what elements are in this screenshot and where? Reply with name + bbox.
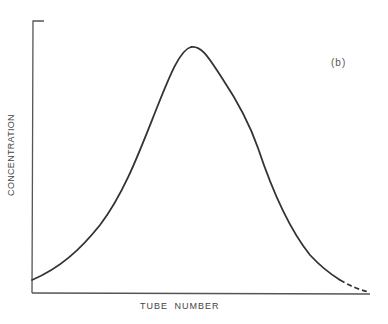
panel-label: (b)	[331, 57, 346, 68]
y-axis	[32, 21, 44, 293]
y-axis-label: CONCENTRATION	[6, 100, 16, 210]
x-axis-label: TUBE NUMBER	[140, 301, 220, 311]
concentration-curve	[32, 47, 340, 280]
chart-canvas	[0, 0, 388, 324]
x-axis	[32, 293, 370, 294]
extrapolated-tail	[340, 280, 369, 292]
